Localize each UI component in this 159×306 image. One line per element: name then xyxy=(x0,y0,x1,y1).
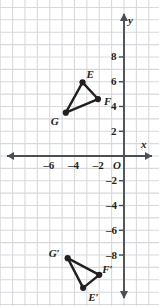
vertex-point xyxy=(95,96,101,102)
y-tick-label: –2 xyxy=(106,175,117,186)
vertex-label-E: E xyxy=(87,69,94,80)
vertex-label-F: F xyxy=(104,96,111,107)
vertex-label-G: G xyxy=(51,116,59,127)
y-tick-label: 8 xyxy=(111,51,117,62)
origin-label: O xyxy=(113,160,121,171)
vertex-point xyxy=(63,110,69,116)
vertex-label-Eprime: E′ xyxy=(88,292,98,303)
vertex-label-Fprime: F′ xyxy=(102,264,112,275)
coordinate-plane-figure: –6–4–28642–2–4–6–8OxyEFGG′F′E′ xyxy=(0,0,159,306)
y-tick-label: 6 xyxy=(111,76,117,87)
y-tick-label: 2 xyxy=(111,126,117,137)
y-tick-label: –6 xyxy=(106,225,117,236)
triangles xyxy=(0,0,159,306)
x-tick-label: –4 xyxy=(68,160,79,171)
y-tick-label: 4 xyxy=(111,101,117,112)
vertex-point xyxy=(65,255,71,261)
y-axis-label: y xyxy=(128,15,133,26)
vertex-label-Gprime: G′ xyxy=(49,248,60,259)
vertex-point xyxy=(80,285,86,291)
x-tick-label: –2 xyxy=(93,160,104,171)
y-tick-label: –8 xyxy=(106,250,117,261)
vertex-point xyxy=(79,79,85,85)
x-tick-label: –6 xyxy=(43,160,54,171)
y-tick-label: –4 xyxy=(106,200,117,211)
triangle-efg-prime xyxy=(68,258,100,288)
triangle-efg xyxy=(66,82,98,112)
x-axis-label: x xyxy=(141,139,147,150)
